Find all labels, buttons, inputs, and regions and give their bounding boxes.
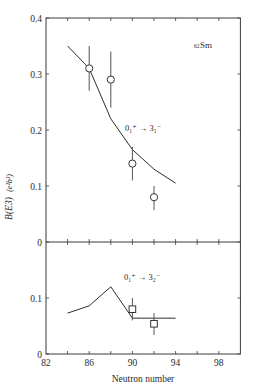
data-point-circle	[129, 160, 136, 167]
y-tick-label: 0.3	[30, 70, 42, 80]
data-point-square	[151, 320, 158, 327]
y-tick-label: 0.2	[30, 126, 42, 136]
x-tick-label: 98	[214, 358, 224, 368]
data-point-square	[129, 306, 136, 313]
data-point-circle	[150, 194, 157, 201]
y-axis-label-main: B(E3)	[4, 197, 15, 220]
x-tick-label: 94	[171, 358, 181, 368]
y-tick-label: 0.1	[30, 182, 42, 192]
nucleus-prefix: 62	[194, 43, 200, 49]
nucleus-label: Sm	[200, 40, 212, 50]
y-axis-label: B(E3) (e²b³)	[4, 174, 15, 220]
theory-curve	[68, 46, 176, 183]
top-transition-label: 0₁⁺ → 3₁⁻	[125, 123, 161, 133]
x-axis-label: Neutron number	[112, 374, 175, 384]
y-tick-label: 0.4	[30, 14, 42, 24]
axes-box	[46, 18, 240, 354]
bottom-panel: 00.1	[30, 242, 240, 360]
x-tick-label: 86	[84, 358, 94, 368]
x-tick-label: 90	[128, 358, 138, 368]
b-e3-chart: 00.10.20.30.4 00.1 8286909498 62 Sm 0₁⁺ …	[0, 0, 255, 392]
x-tick-label: 82	[41, 358, 51, 368]
plot-frame: 8286909498	[41, 18, 240, 368]
bottom-transition-label: 0₁⁺ → 3₂⁻	[124, 272, 160, 282]
y-tick-label: 0.1	[30, 294, 42, 304]
data-point-circle	[86, 65, 93, 72]
theory-curve	[68, 287, 176, 318]
y-tick-label: 0	[37, 238, 42, 248]
y-axis-label-units: (e²b³)	[5, 174, 14, 192]
data-point-circle	[107, 76, 114, 83]
